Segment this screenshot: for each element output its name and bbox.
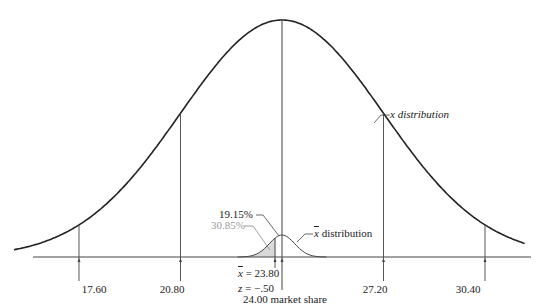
xbar-marker-arrow <box>274 258 277 262</box>
tick-label-20-80: 20.80 <box>160 284 185 295</box>
x-dist-text: x distribution <box>390 108 449 120</box>
tick-arrow <box>484 258 487 262</box>
mean-marker-arrow <box>281 258 284 262</box>
xbar-distribution-label: x distribution <box>314 228 372 239</box>
x-distribution-curve <box>14 20 525 250</box>
tick-arrow <box>179 258 182 262</box>
leader-19-15 <box>256 215 279 236</box>
tick-arrow <box>382 258 385 262</box>
x-distribution-label: x distribution <box>390 109 449 120</box>
pct-30-85-label: 30.85% <box>211 220 245 231</box>
normal-distribution-chart: x distribution x distribution 19.15% 30.… <box>0 0 548 307</box>
xbar-eq-text: = 23.80 <box>243 267 279 279</box>
tick-label-27-20: 27.20 <box>363 284 388 295</box>
tick-arrow <box>78 258 81 262</box>
xbar-value-label: x = 23.80 <box>238 268 279 279</box>
xbar-dist-text: distribution <box>319 227 372 239</box>
tick-label-30-40: 30.40 <box>456 284 481 295</box>
leader-xbar-dist <box>297 234 313 242</box>
tick-label-17-60: 17.60 <box>82 284 107 295</box>
mean-market-share-label: 24.00 market share <box>243 294 327 305</box>
chart-canvas <box>0 0 548 307</box>
